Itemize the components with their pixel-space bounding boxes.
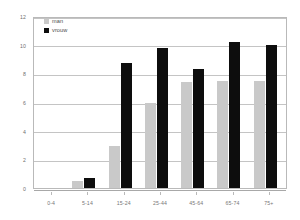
bar-man-5-14 bbox=[72, 181, 83, 188]
y-tick-label: 12 bbox=[20, 14, 26, 20]
legend-swatch-icon bbox=[44, 28, 49, 33]
gridline bbox=[34, 190, 286, 191]
x-tick-mark bbox=[87, 192, 88, 195]
legend-label: vrouw bbox=[52, 27, 67, 33]
chart-legend: manvrouw bbox=[44, 18, 67, 33]
x-axis: 0-45-1415-2425-4445-6465-7475+ bbox=[33, 192, 287, 212]
bar-group bbox=[143, 18, 179, 188]
plot-area bbox=[33, 17, 287, 189]
x-tick-mark bbox=[233, 192, 234, 195]
x-tick-label: 75+ bbox=[264, 200, 273, 206]
legend-entry-vrouw[interactable]: vrouw bbox=[44, 27, 67, 33]
x-tick-mark bbox=[160, 192, 161, 195]
x-tick-mark bbox=[196, 192, 197, 195]
bar-vrouw-75+ bbox=[266, 45, 277, 188]
bar-man-45-64 bbox=[181, 82, 192, 188]
bar-group bbox=[34, 18, 70, 188]
bar-vrouw-45-64 bbox=[193, 69, 204, 188]
bar-vrouw-65-74 bbox=[229, 42, 240, 188]
bar-man-15-24 bbox=[109, 146, 120, 188]
x-tick-label: 0-4 bbox=[47, 200, 55, 206]
bar-man-75+ bbox=[254, 81, 265, 188]
x-tick-label: 25-44 bbox=[153, 200, 167, 206]
y-tick-label: 10 bbox=[20, 43, 26, 49]
bar-group bbox=[252, 18, 288, 188]
y-tick-label: 6 bbox=[23, 100, 26, 106]
x-tick-label: 65-74 bbox=[226, 200, 240, 206]
x-tick-mark bbox=[124, 192, 125, 195]
x-tick-label: 5-14 bbox=[82, 200, 93, 206]
bar-group bbox=[215, 18, 251, 188]
y-tick-label: 0 bbox=[23, 186, 26, 192]
bar-man-25-44 bbox=[145, 103, 156, 188]
bar-man-65-74 bbox=[217, 81, 228, 189]
x-tick-mark bbox=[51, 192, 52, 195]
bar-group bbox=[107, 18, 143, 188]
y-tick-label: 8 bbox=[23, 71, 26, 77]
bar-vrouw-5-14 bbox=[84, 178, 95, 188]
x-tick-label: 15-24 bbox=[117, 200, 131, 206]
bars-layer bbox=[34, 18, 286, 188]
y-tick-label: 2 bbox=[23, 157, 26, 163]
legend-label: man bbox=[52, 18, 63, 24]
bar-chart: 024681012 0-45-1415-2425-4445-6465-7475+… bbox=[0, 0, 300, 220]
x-tick-mark bbox=[269, 192, 270, 195]
y-tick-label: 4 bbox=[23, 129, 26, 135]
bar-vrouw-25-44 bbox=[157, 48, 168, 188]
y-axis: 024681012 bbox=[0, 17, 30, 189]
bar-group bbox=[179, 18, 215, 188]
x-tick-label: 45-64 bbox=[189, 200, 203, 206]
bar-vrouw-15-24 bbox=[121, 63, 132, 188]
legend-entry-man[interactable]: man bbox=[44, 18, 67, 24]
legend-swatch-icon bbox=[44, 19, 49, 24]
bar-group bbox=[70, 18, 106, 188]
